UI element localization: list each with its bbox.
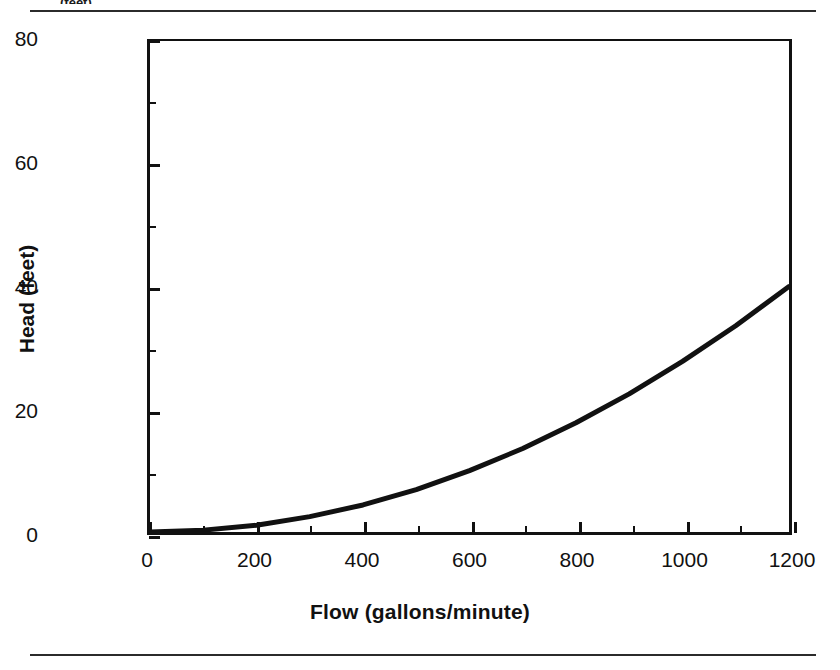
- x-axis-minor-tick: [310, 526, 312, 533]
- x-axis-major-tick: [687, 522, 690, 533]
- x-axis-major-tick: [472, 522, 475, 533]
- x-axis-major-tick: [149, 522, 152, 533]
- x-axis-tick-label: 0: [87, 548, 207, 572]
- x-axis-tick-label: 1000: [625, 548, 745, 572]
- y-axis-tick-label: 80: [0, 27, 38, 51]
- x-axis-tick-label: 400: [302, 548, 422, 572]
- y-axis-minor-tick: [149, 102, 156, 104]
- x-axis-minor-tick: [633, 526, 635, 533]
- x-axis-major-tick: [794, 522, 797, 533]
- x-axis-minor-tick: [418, 526, 420, 533]
- x-axis-title: Flow (gallons/minute): [0, 600, 840, 624]
- y-axis-minor-tick: [149, 226, 156, 228]
- head-curve-line: [150, 287, 789, 533]
- y-axis-minor-tick: [149, 350, 156, 352]
- plot-area: [147, 39, 792, 535]
- x-axis-major-tick: [257, 522, 260, 533]
- y-axis-major-tick: [149, 288, 160, 291]
- y-axis-tick-label: 0: [0, 523, 38, 547]
- chart-curve-svg: [150, 41, 789, 532]
- y-axis-minor-tick: [149, 474, 156, 476]
- x-axis-major-tick: [364, 522, 367, 533]
- y-axis-major-tick: [149, 40, 160, 43]
- y-axis-title: Head (feet): [15, 129, 39, 469]
- x-axis-minor-tick: [740, 526, 742, 533]
- x-axis-tick-label: 600: [410, 548, 530, 572]
- y-axis-major-tick: [149, 536, 160, 539]
- pump-curve-chart: 020406080 020040060080010001200 Flow (ga…: [0, 0, 840, 670]
- x-axis-tick-label: 1200: [732, 548, 840, 572]
- x-axis-tick-label: 200: [195, 548, 315, 572]
- x-axis-minor-tick: [525, 526, 527, 533]
- x-axis-tick-label: 800: [517, 548, 637, 572]
- x-axis-major-tick: [579, 522, 582, 533]
- y-axis-major-tick: [149, 412, 160, 415]
- x-axis-minor-tick: [203, 526, 205, 533]
- figure-page: (feet) 020406080 020040060080010001200 F…: [0, 0, 840, 670]
- y-axis-major-tick: [149, 164, 160, 167]
